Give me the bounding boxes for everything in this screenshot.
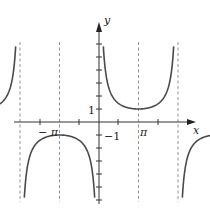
csc-graph: y x − π π 1 −1 — [0, 0, 210, 210]
neg-one-label: −1 — [104, 130, 120, 143]
x-axis — [14, 119, 196, 125]
y-axis — [96, 22, 102, 204]
y-axis-arrow-icon — [96, 22, 102, 32]
curve-branch-2 — [24, 135, 94, 198]
x-axis-label: x — [193, 124, 200, 137]
neg-pi-label: − π — [38, 126, 59, 139]
curve-branch-4 — [182, 135, 210, 198]
pi-label: π — [139, 126, 148, 139]
one-label: 1 — [88, 104, 95, 117]
y-axis-label: y — [103, 14, 111, 27]
curve-branch-1 — [0, 46, 16, 109]
